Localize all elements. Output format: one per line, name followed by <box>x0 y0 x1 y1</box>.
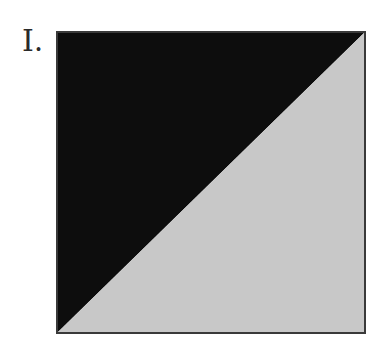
square-graphic <box>58 33 364 332</box>
figure-label: I. <box>22 26 43 56</box>
diagonal-split-square <box>56 31 366 334</box>
